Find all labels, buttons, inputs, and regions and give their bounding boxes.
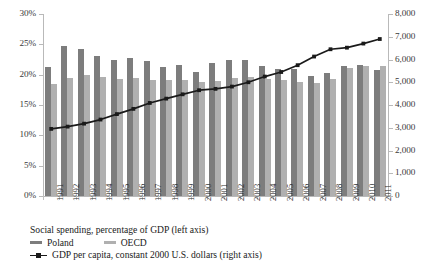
right-axis-tick-label: 1,000 — [395, 168, 415, 177]
legend-item-oecd: OECD — [104, 237, 147, 250]
left-axis-tick-label: 10% — [0, 130, 36, 139]
legend-label-poland: Poland — [47, 237, 74, 250]
gdp-line-marker — [131, 107, 135, 111]
right-axis-tick-label: 7,000 — [395, 32, 415, 41]
gdp-line-marker — [181, 92, 185, 96]
right-axis-tick-label: 5,000 — [395, 77, 415, 86]
gdp-line-marker — [148, 101, 152, 105]
gdp-line-marker — [197, 88, 201, 92]
right-axis-tick-label: 4,000 — [395, 100, 415, 109]
legend-row-line: GDP per capita, constant 2000 U.S. dolla… — [30, 249, 420, 262]
left-axis-tick-label: 25% — [0, 39, 36, 48]
chart-container: 0%5%10%15%20%25%30% 01,0002,0003,0004,00… — [0, 0, 428, 275]
gdp-line-path — [51, 39, 380, 129]
gdp-line-marker — [345, 46, 349, 50]
gdp-line-marker — [49, 127, 53, 131]
legend-row-bars: Poland OECD — [30, 237, 420, 250]
legend-title: Social spending, percentage of GDP (left… — [30, 224, 420, 237]
gdp-line-marker — [66, 125, 70, 129]
gdp-line-marker — [378, 37, 382, 41]
gdp-line-marker — [279, 70, 283, 74]
gdp-line-marker — [99, 118, 103, 122]
gdp-line-marker — [329, 47, 333, 51]
gdp-line-marker — [263, 75, 267, 79]
legend-label-oecd: OECD — [121, 237, 147, 250]
gdp-line-marker — [312, 55, 316, 59]
gdp-per-capita-line — [43, 14, 389, 197]
right-axis-tick-label: 2,000 — [395, 146, 415, 155]
legend-item-gdp: GDP per capita, constant 2000 U.S. dolla… — [30, 249, 262, 262]
oecd-swatch-icon — [104, 241, 116, 244]
legend-label-gdp: GDP per capita, constant 2000 U.S. dolla… — [52, 249, 262, 262]
right-axis-tick-label: 3,000 — [395, 123, 415, 132]
line-square-marker-icon — [30, 252, 47, 259]
poland-swatch-icon — [30, 241, 42, 244]
right-axis-tick-label: 6,000 — [395, 55, 415, 64]
left-axis-tick-label: 0% — [0, 191, 36, 200]
chart-legend: Social spending, percentage of GDP (left… — [30, 224, 420, 262]
left-axis-tick-label: 15% — [0, 100, 36, 109]
right-axis-tick-label: 8,000 — [395, 9, 415, 18]
gdp-line-marker — [361, 42, 365, 46]
right-axis-tick-label: 0 — [395, 191, 400, 200]
left-axis-tick-label: 20% — [0, 70, 36, 79]
gdp-line-marker — [214, 87, 218, 91]
gdp-line-marker — [164, 97, 168, 101]
gdp-line-marker — [115, 112, 119, 116]
legend-item-poland: Poland — [30, 237, 74, 250]
left-axis-tick-label: 30% — [0, 9, 36, 18]
left-axis-tick-label: 5% — [0, 161, 36, 170]
gdp-line-marker — [82, 122, 86, 126]
gdp-line-marker — [296, 63, 300, 67]
gdp-line-marker — [230, 85, 234, 89]
gdp-line-marker — [246, 80, 250, 84]
